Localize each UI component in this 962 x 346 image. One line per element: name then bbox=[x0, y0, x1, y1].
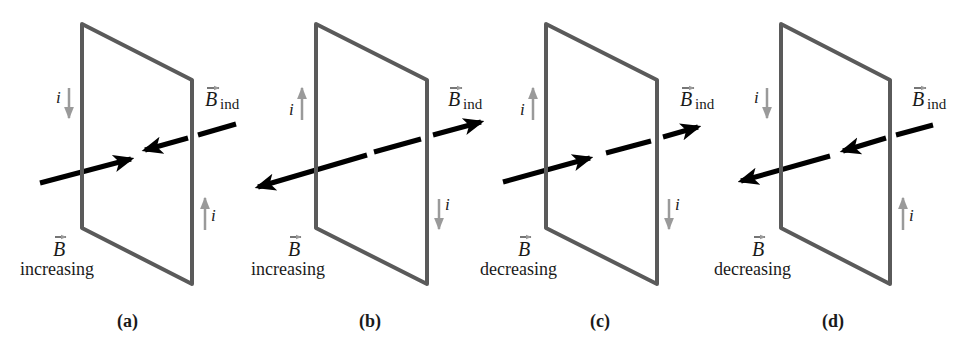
b-field-arrow bbox=[741, 156, 830, 181]
svg-text:B: B bbox=[912, 88, 924, 110]
b-label: B bbox=[518, 237, 531, 260]
b-label: B bbox=[53, 237, 66, 260]
b-ind-arrow-tail bbox=[896, 125, 933, 135]
panel-c: i i B ind B decreasing (c) bbox=[480, 24, 715, 332]
b-field-arrow bbox=[40, 159, 131, 183]
wire-loop bbox=[546, 24, 657, 284]
b-ind-arrow-tail bbox=[198, 124, 236, 135]
field-state-label: decreasing bbox=[714, 259, 791, 279]
svg-text:ind: ind bbox=[463, 96, 483, 112]
wire-loop bbox=[82, 24, 192, 284]
svg-text:B: B bbox=[53, 238, 65, 260]
wire-loop bbox=[781, 24, 890, 284]
panel-a: i i B ind B increasing (a) bbox=[20, 24, 240, 332]
svg-text:ind: ind bbox=[927, 96, 947, 112]
b-label: B bbox=[752, 237, 765, 260]
panel-caption: (c) bbox=[590, 311, 610, 332]
b-ind-arrow-dash bbox=[606, 141, 651, 153]
field-state-label: increasing bbox=[20, 259, 94, 279]
b-ind-arrow bbox=[843, 138, 886, 151]
current-label-right: i bbox=[675, 195, 680, 214]
b-ind-arrow-dash bbox=[374, 139, 421, 152]
panel-caption: (a) bbox=[117, 311, 138, 332]
current-label-right: i bbox=[909, 206, 914, 225]
current-label-right: i bbox=[211, 206, 216, 225]
svg-text:B: B bbox=[518, 238, 530, 260]
svg-text:B: B bbox=[448, 88, 460, 110]
svg-text:B: B bbox=[205, 88, 217, 110]
b-ind-arrow bbox=[663, 127, 698, 137]
svg-text:ind: ind bbox=[220, 96, 240, 112]
svg-text:B: B bbox=[752, 238, 764, 260]
panel-caption: (b) bbox=[359, 311, 381, 332]
b-ind-arrow bbox=[145, 138, 188, 150]
b-ind-label: B ind bbox=[912, 88, 947, 112]
current-label-left: i bbox=[289, 100, 294, 119]
wire-loop bbox=[316, 24, 427, 284]
panel-caption: (d) bbox=[822, 311, 844, 332]
b-field-arrow bbox=[258, 155, 367, 187]
b-ind-label: B ind bbox=[205, 88, 240, 112]
current-label-right: i bbox=[445, 195, 450, 214]
field-state-label: decreasing bbox=[480, 259, 557, 279]
b-label: B bbox=[288, 237, 301, 260]
b-ind-label: B ind bbox=[448, 88, 483, 112]
panel-b: i i B ind B increasing (b) bbox=[251, 24, 483, 332]
svg-text:B: B bbox=[288, 238, 300, 260]
panel-d: i i B ind B decreasing (d) bbox=[714, 24, 947, 332]
b-ind-arrow bbox=[433, 122, 481, 135]
svg-text:B: B bbox=[680, 88, 692, 110]
svg-text:ind: ind bbox=[695, 96, 715, 112]
field-state-label: increasing bbox=[251, 259, 325, 279]
current-label-left: i bbox=[520, 100, 525, 119]
b-ind-label: B ind bbox=[680, 88, 715, 112]
induction-diagram: i i B ind B increasing (a) i i B ind bbox=[0, 0, 962, 346]
current-label-left: i bbox=[56, 88, 61, 107]
current-label-left: i bbox=[754, 88, 759, 107]
